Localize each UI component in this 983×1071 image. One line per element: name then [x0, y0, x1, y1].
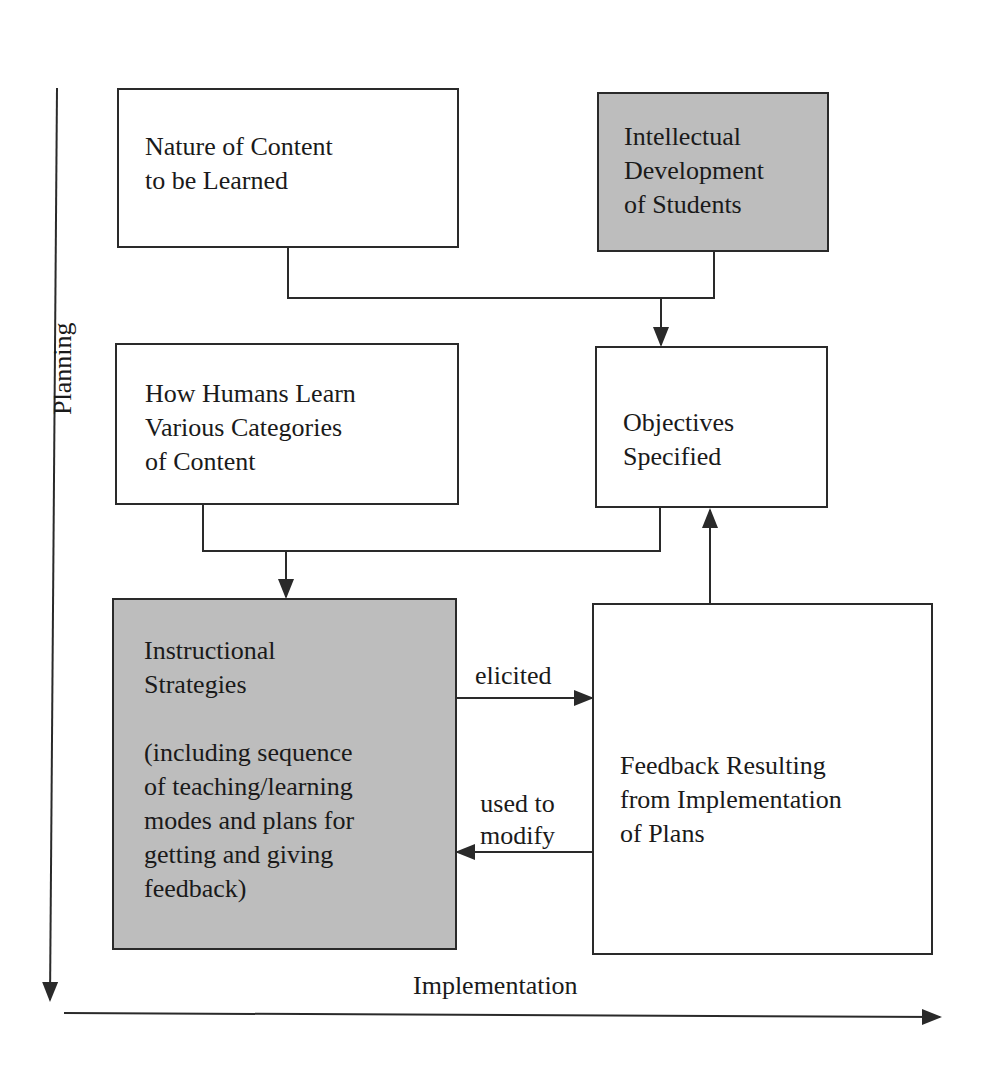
box-instructional-strategies: Instructional Strategies (including sequ…	[112, 598, 457, 950]
edge-label-elicited: elicited	[475, 660, 552, 692]
axis-label-planning: Planning	[48, 323, 78, 415]
box-how-humans-learn: How Humans Learn Various Categories of C…	[115, 343, 459, 505]
box-label: How Humans Learn Various Categories of C…	[145, 377, 356, 479]
box-feedback-results: Feedback Resulting from Implementation o…	[592, 603, 933, 955]
box-label: Objectives Specified	[623, 406, 734, 474]
axis-label-implementation: Implementation	[413, 970, 578, 1002]
box-label: Instructional Strategies (including sequ…	[144, 634, 354, 906]
box-objectives-specified: Objectives Specified	[595, 346, 828, 508]
box-label: Intellectual Development of Students	[624, 120, 764, 222]
box-label: Nature of Content to be Learned	[145, 130, 333, 198]
edge-label-used-to-modify: used to modify	[480, 788, 555, 852]
box-nature-of-content: Nature of Content to be Learned	[117, 88, 459, 248]
box-intellectual-development: Intellectual Development of Students	[597, 92, 829, 252]
box-label: Feedback Resulting from Implementation o…	[620, 749, 842, 851]
